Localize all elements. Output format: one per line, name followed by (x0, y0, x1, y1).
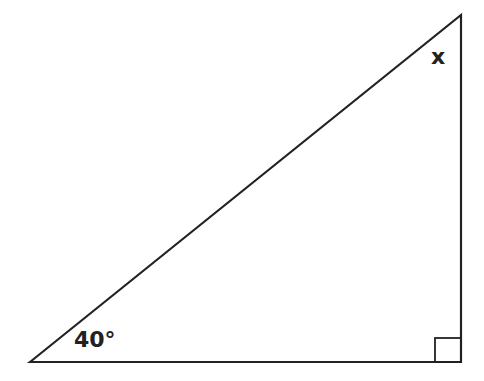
triangle (30, 15, 461, 362)
angle-label-40: 40° (74, 327, 116, 352)
angle-label-x: x (431, 44, 445, 69)
right-angle-marker (435, 338, 461, 362)
triangle-diagram (0, 0, 484, 381)
